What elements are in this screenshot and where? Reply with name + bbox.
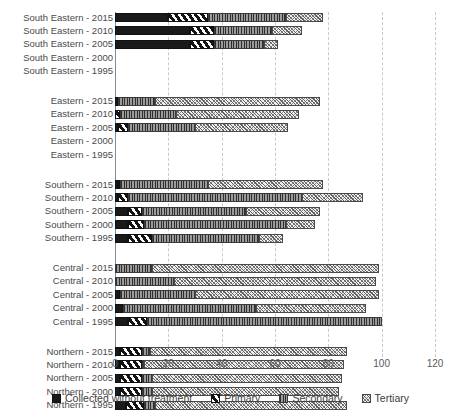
segment-tertiary [259,234,283,243]
x-tick-label: 0 [112,358,118,369]
category-label: Northern - 2010 [1,360,113,369]
x-tick-label: 100 [373,358,390,369]
category-label: Southern - 2010 [1,193,113,202]
category-label: Eastern - 2000 [1,136,113,145]
category-label: Central - 2005 [1,290,113,299]
legend-swatch-secondary [279,394,288,403]
value-axis-ticks: 020406080100120 [115,358,435,374]
bar-central-2010 [115,277,376,286]
bar-south-eastern-2005 [115,40,278,49]
bar-southern-2010 [115,193,363,202]
segment-primary [168,13,208,22]
category-label: Central - 2015 [1,263,113,272]
segment-secondary [144,220,285,229]
segment-primary [190,26,214,35]
category-axis-labels: South Eastern - 2015South Eastern - 2010… [0,12,113,357]
legend-swatch-collected-without-treatment [52,394,61,403]
segment-primary [190,40,214,49]
segment-tertiary [152,264,379,273]
bar-central-2000 [115,304,366,313]
segment-tertiary [264,40,277,49]
stacked-bar-chart: South Eastern - 2015South Eastern - 2010… [0,0,461,418]
chart-legend: Collected without treatmentPrimarySecond… [0,388,461,408]
segment-tertiary [176,110,299,119]
category-label: Northern - 2005 [1,373,113,382]
category-label: Northern - 2015 [1,347,113,356]
segment-primary [128,234,152,243]
legend-label: Tertiary [375,392,409,404]
segment-secondary [214,26,273,35]
segment-primary [118,193,129,202]
category-label: South Eastern - 2010 [1,26,113,35]
category-label: Central - 2010 [1,276,113,285]
segment-tertiary [286,13,323,22]
segment-collected-without-treatment [115,317,128,326]
bar-southern-2000 [115,220,315,229]
segment-secondary [208,13,285,22]
bar-south-eastern-2010 [115,26,302,35]
category-label: South Eastern - 2000 [1,53,113,62]
segment-secondary [120,290,195,299]
bar-south-eastern-2015 [115,13,323,22]
bar-northern-2005 [115,374,342,383]
bar-central-2015 [115,264,379,273]
x-tick-label: 40 [216,358,227,369]
segment-collected-without-treatment [115,207,128,216]
segment-secondary [214,40,265,49]
category-label: South Eastern - 2005 [1,39,113,48]
segment-secondary [142,374,153,383]
plot-area [115,12,435,357]
segment-secondary [152,234,259,243]
segment-primary [128,317,147,326]
segment-secondary [128,123,195,132]
segment-secondary [142,347,150,356]
segment-secondary [123,304,256,313]
bar-eastern-2015 [115,97,320,106]
segment-secondary [118,97,155,106]
segment-secondary [120,180,208,189]
gridline-100 [382,12,383,357]
segment-tertiary [174,277,377,286]
gridline-120 [435,12,436,357]
segment-primary [118,123,129,132]
bar-eastern-2010 [115,110,299,119]
segment-secondary [115,264,152,273]
segment-tertiary [302,193,363,202]
segment-collected-without-treatment [115,304,123,313]
bar-southern-1995 [115,234,283,243]
segment-secondary [147,317,382,326]
segment-tertiary [195,290,379,299]
segment-primary [128,207,141,216]
segment-collected-without-treatment [115,26,190,35]
x-tick-label: 60 [269,358,280,369]
segment-tertiary [208,180,323,189]
legend-item-collected-without-treatment: Collected without treatment [52,392,192,404]
segment-collected-without-treatment [115,13,168,22]
legend-item-secondary: Secondary [279,392,342,404]
category-label: Eastern - 2005 [1,123,113,132]
category-label: Southern - 2005 [1,206,113,215]
category-label: Southern - 2015 [1,180,113,189]
category-label: Eastern - 1995 [1,150,113,159]
category-label: South Eastern - 1995 [1,66,113,75]
segment-tertiary [272,26,301,35]
legend-label: Secondary [292,392,342,404]
category-label: South Eastern - 2015 [1,13,113,22]
category-label: Southern - 1995 [1,233,113,242]
segment-tertiary [246,207,321,216]
segment-secondary [120,110,176,119]
bar-southern-2015 [115,180,323,189]
segment-secondary [128,193,301,202]
segment-primary [120,374,141,383]
x-tick-label: 80 [323,358,334,369]
segment-primary [128,220,144,229]
segment-secondary [142,207,246,216]
category-label: Eastern - 2015 [1,96,113,105]
bar-eastern-2005 [115,123,288,132]
category-label: Central - 1995 [1,317,113,326]
segment-collected-without-treatment [115,40,190,49]
segment-secondary [115,277,174,286]
segment-tertiary [256,304,365,313]
x-tick-label: 20 [163,358,174,369]
category-label: Eastern - 2010 [1,109,113,118]
